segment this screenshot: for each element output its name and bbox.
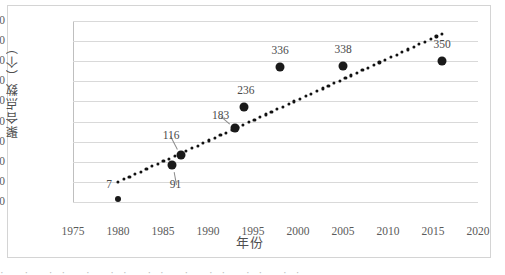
trendline-dot (151, 165, 154, 168)
trendline-dot (321, 87, 324, 90)
trendline-dot (116, 180, 119, 183)
y-tick-label-150: 150 (0, 136, 5, 148)
gridline-y-250 (73, 101, 478, 102)
trendline-dot (412, 45, 415, 48)
gridline-y-200 (73, 122, 478, 123)
trendline-dot (344, 76, 347, 79)
gridline-y-300 (73, 81, 478, 82)
caption-strip: · · ·· · ·· ·· · ·· ·· ·· (0, 266, 505, 275)
trendline-dot (361, 69, 364, 72)
chart-frame: 聚合点数（个） 年份 050100150200250300350400450 1… (7, 5, 491, 258)
y-tick-label-350: 350 (0, 55, 5, 67)
trendline-dot (395, 53, 398, 56)
trendline-dot (185, 149, 188, 152)
trendline-dot (440, 32, 443, 35)
x-tick-label-2020: 2020 (448, 226, 505, 238)
trendline-dot (423, 40, 426, 43)
trendline-dot (219, 134, 222, 137)
point-label-338: 338 (334, 44, 351, 56)
trendline-dot (401, 50, 404, 53)
trendline-dot (264, 113, 267, 116)
trendline-dot (270, 110, 273, 113)
gridline-y-450 (73, 21, 478, 22)
trendline-dot (304, 95, 307, 98)
trendline-dot (145, 167, 148, 170)
trendline-dot (122, 178, 125, 181)
y-tick-label-400: 400 (0, 35, 5, 47)
point-label-91: 91 (170, 179, 182, 191)
gridline-y-100 (73, 162, 478, 163)
data-point-2016 (438, 57, 447, 66)
trendline-dot (298, 97, 301, 100)
trendline-dot (378, 61, 381, 64)
trendline-dot (276, 108, 279, 111)
trendline-dot (332, 82, 335, 85)
trendline-dot (355, 71, 358, 74)
y-tick-label-250: 250 (0, 95, 5, 107)
point-label-116: 116 (163, 130, 180, 142)
point-label-7: 7 (106, 179, 112, 191)
y-tick-label-0: 0 (0, 196, 5, 208)
gridline-y-50 (73, 182, 478, 183)
trendline-dot (224, 131, 227, 134)
trendline-dot (241, 123, 244, 126)
trendline-dot (372, 63, 375, 66)
trendline-dot (293, 100, 296, 103)
trendline-dot (327, 84, 330, 87)
trendline-dot (128, 175, 131, 178)
y-axis-title: 聚合点数（个） (3, 40, 22, 138)
trendline-dot (202, 141, 205, 144)
trendline-dot (190, 147, 193, 150)
trendline-dot (281, 105, 284, 108)
point-label-336: 336 (271, 45, 288, 57)
trendline-dot (213, 136, 216, 139)
gridline-y-0 (73, 202, 478, 203)
y-tick-label-100: 100 (0, 156, 5, 168)
gridline-y-350 (73, 61, 478, 62)
point-label-236: 236 (237, 85, 254, 97)
y-tick-label-200: 200 (0, 116, 5, 128)
trendline-dot (310, 92, 313, 95)
trendline-dot (196, 144, 199, 147)
point-label-350: 350 (433, 39, 450, 51)
y-axis-line (73, 21, 74, 202)
y-tick-label-300: 300 (0, 75, 5, 87)
trendline-dot (139, 170, 142, 173)
trendline-dot (418, 43, 421, 46)
trendline-dot (168, 157, 171, 160)
trendline-dot (406, 48, 409, 51)
gridline-y-150 (73, 142, 478, 143)
trendline-dot (156, 162, 159, 165)
trendline-dot (389, 56, 392, 59)
plot-area: 050100150200250300350400450 197519801985… (73, 21, 478, 202)
data-point-1998 (276, 62, 285, 71)
trendline-dot (247, 121, 250, 124)
gridline-y-400 (73, 41, 478, 42)
point-label-183: 183 (212, 110, 229, 122)
trendline-dot (259, 115, 262, 118)
y-tick-label-450: 450 (0, 15, 5, 27)
chart-screenshot: 聚合点数（个） 年份 050100150200250300350400450 1… (0, 0, 505, 275)
trendline-dot (133, 173, 136, 176)
data-point-1980 (115, 196, 121, 202)
trendline-dot (367, 66, 370, 69)
data-point-1986 (168, 161, 177, 170)
data-point-2005 (339, 62, 348, 71)
data-point-1994 (240, 103, 249, 112)
data-point-1993 (231, 124, 240, 133)
data-point-1987 (177, 151, 186, 160)
trendline-dot (349, 74, 352, 77)
trendline-dot (287, 102, 290, 105)
y-tick-label-50: 50 (0, 176, 5, 188)
trendline-dot (315, 89, 318, 92)
